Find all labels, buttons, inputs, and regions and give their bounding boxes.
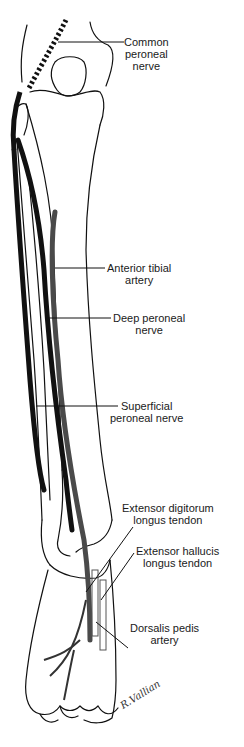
label-line: Common	[124, 36, 169, 48]
label-line: nerve	[124, 60, 169, 72]
label-line: Superficial	[110, 400, 183, 412]
label-extensor-hallucis-longus-tendon: Extensor hallucis longus tendon	[136, 545, 219, 569]
label-line: Deep peroneal	[113, 312, 185, 324]
label-anterior-tibial-artery: Anterior tibial artery	[107, 262, 171, 286]
leg-anatomy-illustration	[0, 0, 244, 747]
label-line: peroneal	[124, 48, 169, 60]
label-dorsalis-pedis-artery: Dorsalis pedis artery	[130, 622, 199, 646]
label-extensor-digitorum-longus-tendon: Extensor digitorum longus tendon	[122, 502, 214, 526]
label-superficial-peroneal-nerve: Superficial peroneal nerve	[110, 400, 183, 424]
label-line: artery	[130, 634, 199, 646]
label-line: Extensor hallucis	[136, 545, 219, 557]
dorsalis-pedis-branches	[44, 600, 86, 700]
label-line: nerve	[113, 324, 185, 336]
label-line: Dorsalis pedis	[130, 622, 199, 634]
label-line: Extensor digitorum	[122, 502, 214, 514]
label-line: longus tendon	[136, 557, 219, 569]
label-line: peroneal nerve	[110, 412, 183, 424]
label-line: artery	[107, 274, 171, 286]
label-deep-peroneal-nerve: Deep peroneal nerve	[113, 312, 185, 336]
extensor-tendons	[92, 570, 106, 650]
label-common-peroneal-nerve: Common peroneal nerve	[124, 36, 169, 72]
common-peroneal-nerve-dashed	[28, 20, 66, 90]
superficial-peroneal-nerve	[14, 150, 44, 490]
label-line: longus tendon	[122, 514, 214, 526]
label-line: Anterior tibial	[107, 262, 171, 274]
